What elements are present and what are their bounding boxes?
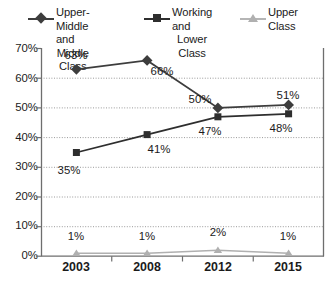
data-label: 1% (127, 230, 167, 242)
data-label: 66% (142, 65, 182, 77)
data-label: 2% (198, 226, 238, 238)
data-label: 51% (268, 89, 308, 101)
data-label: 1% (268, 230, 308, 242)
x-tick-label-2003: 2003 (41, 260, 111, 274)
x-tick-label-2015: 2015 (253, 260, 323, 274)
square-marker-icon (144, 13, 170, 24)
plot-area: 70% 60% 50% 40% 30% 20% 10% 0% (0, 40, 331, 284)
diamond-marker-icon (28, 13, 54, 24)
y-tick-marks (36, 49, 41, 257)
data-label: 35% (49, 164, 89, 176)
x-tick-label-2008: 2008 (112, 260, 182, 274)
data-label: 41% (139, 143, 179, 155)
data-label: 47% (190, 125, 230, 137)
x-tick-label-2012: 2012 (183, 260, 253, 274)
data-label: 63% (56, 49, 96, 61)
legend-label: Upper Class (268, 6, 298, 33)
data-label: 50% (180, 93, 220, 105)
series-upper-class (72, 246, 293, 256)
axis-lines (41, 48, 324, 256)
line-chart: Upper-Middle and Middle Class Working an… (0, 0, 331, 284)
triangle-marker-icon (240, 13, 266, 24)
x-axis-labels: 2003 2008 2012 2015 (41, 260, 325, 282)
chart-legend: Upper-Middle and Middle Class Working an… (0, 6, 331, 40)
series-working-and-lower-class (73, 110, 292, 156)
data-label: 1% (56, 230, 96, 242)
data-label: 48% (261, 122, 301, 134)
